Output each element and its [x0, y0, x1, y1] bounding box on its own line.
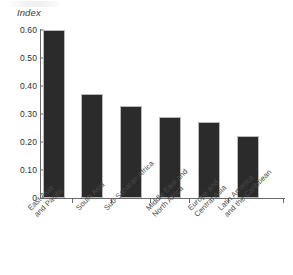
y-tick-label-4: 0.40 [20, 81, 37, 91]
plot-area [41, 30, 283, 198]
y-tick-label-3: 0.30 [20, 109, 37, 119]
y-tick-label-1: 0.10 [20, 165, 37, 175]
x-axis-label-east-asia-and-pacific: East Asia and Pacific [26, 179, 66, 219]
y-axis-title: Index [17, 7, 41, 18]
bar-0 [43, 30, 65, 198]
y-tick-label-6: 0.60 [20, 25, 37, 35]
y-tick-label-5: 0.50 [20, 53, 37, 63]
x-tick-mark-5 [283, 198, 284, 203]
y-tick-label-2: 0.20 [20, 137, 37, 147]
x-tick-mark-0 [72, 198, 73, 203]
bar-chart: Index 0 0.10 0.20 0.30 0.40 0.50 0.60 [0, 0, 293, 275]
